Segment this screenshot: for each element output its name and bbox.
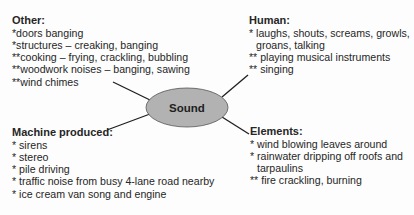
list-item: * traffic noise from busy 4-lane road ne… <box>12 175 214 187</box>
category-heading: Machine produced: <box>12 126 214 138</box>
list-item: ** playing musical instruments <box>249 51 410 63</box>
list-item-continuation: groans, talking <box>249 39 410 51</box>
list-item: * ice cream van song and engine <box>12 188 214 200</box>
list-item-text: * rainwater dripping off roofs and <box>250 150 403 162</box>
list-item: * wind blowing leaves around <box>250 138 403 150</box>
list-item: **cooking – frying, crackling, bubbling <box>12 51 190 63</box>
list-item: * rainwater dripping off roofs and tarpa… <box>250 150 403 174</box>
category-heading: Other: <box>12 14 190 26</box>
list-item: **wind chimes <box>12 76 190 88</box>
list-item-continuation: tarpaulins <box>250 162 403 174</box>
list-item: *doors banging <box>12 27 190 39</box>
list-item: ** singing <box>249 63 410 75</box>
list-item-text: * laughs, shouts, screams, growls, <box>249 27 410 39</box>
list-item: *structures – creaking, banging <box>12 39 190 51</box>
category-other: Other: *doors banging *structures – crea… <box>12 14 190 88</box>
list-item: * sirens <box>12 139 214 151</box>
category-elements: Elements: * wind blowing leaves around *… <box>250 125 403 187</box>
list-item: ** fire crackling, burning <box>250 174 403 186</box>
list-item: **woodwork noises – banging, sawing <box>12 63 190 75</box>
list-item: * laughs, shouts, screams, growls, groan… <box>249 27 410 51</box>
category-machine-produced: Machine produced: * sirens * stereo * pi… <box>12 126 214 200</box>
list-item: * pile driving <box>12 163 214 175</box>
category-heading: Elements: <box>250 125 403 137</box>
category-heading: Human: <box>249 14 410 26</box>
list-item: * stereo <box>12 151 214 163</box>
category-human: Human: * laughs, shouts, screams, growls… <box>249 14 410 76</box>
center-node-label: Sound <box>146 88 228 127</box>
